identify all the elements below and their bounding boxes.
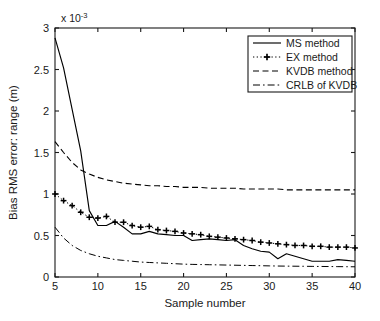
data-point-marker — [172, 228, 178, 234]
chart-canvas: 00.511.522.53 510152025303540 x 10-3 Sam… — [0, 0, 380, 321]
data-point-marker — [189, 231, 195, 237]
data-point-marker — [95, 215, 101, 221]
series-line — [55, 142, 355, 190]
legend-label: CRLB of KVDB — [286, 79, 357, 91]
data-point-marker — [344, 244, 350, 250]
y-tick-label: 2 — [43, 105, 49, 117]
data-point-marker — [241, 237, 247, 243]
data-point-marker — [78, 209, 84, 215]
data-point-marker — [335, 244, 341, 250]
y-tick-label: 2.5 — [34, 64, 49, 76]
data-point-marker — [352, 245, 358, 251]
legend-label: MS method — [286, 37, 340, 49]
data-point-marker — [138, 224, 144, 230]
data-point-marker — [112, 219, 118, 225]
x-tick-label: 15 — [135, 280, 147, 292]
x-tick-label: 40 — [349, 280, 361, 292]
data-point-marker — [266, 240, 272, 246]
data-point-marker — [206, 233, 212, 239]
data-point-marker — [52, 191, 58, 197]
data-point-marker — [104, 214, 110, 220]
x-axis-tick-labels: 510152025303540 — [52, 280, 361, 292]
series-ex-method — [52, 191, 358, 251]
data-point-marker — [301, 243, 307, 249]
y-tick-label: 0 — [43, 271, 49, 283]
y-tick-label: 0.5 — [34, 230, 49, 242]
data-point-marker — [275, 241, 281, 247]
data-point-marker — [198, 232, 204, 238]
data-point-marker — [326, 244, 332, 250]
figure-container: 00.511.522.53 510152025303540 x 10-3 Sam… — [0, 0, 380, 321]
series-line — [55, 194, 355, 248]
y-axis-label: Bias RMS error: range (m) — [7, 85, 19, 220]
x-tick-label: 5 — [52, 280, 58, 292]
data-point-marker — [309, 243, 315, 249]
y-tick-label: 1 — [43, 188, 49, 200]
x-tick-label: 25 — [220, 280, 232, 292]
y-tick-label: 3 — [43, 22, 49, 34]
data-point-marker — [318, 243, 324, 249]
data-point-marker — [164, 228, 170, 234]
legend-label: KVDB method — [286, 65, 353, 77]
data-point-marker — [146, 223, 152, 229]
x-tick-label: 30 — [263, 280, 275, 292]
data-point-marker — [258, 239, 264, 245]
y-tick-label: 1.5 — [34, 147, 49, 159]
x-tick-label: 10 — [92, 280, 104, 292]
data-point-marker — [69, 203, 75, 209]
x-axis-label: Sample number — [164, 297, 245, 309]
data-point-marker — [155, 227, 161, 233]
data-point-marker — [129, 223, 135, 229]
series-kvdb-method — [55, 142, 355, 190]
data-point-marker — [121, 219, 127, 225]
chart-legend[interactable]: MS methodEX methodKVDB methodCRLB of KVD… — [248, 36, 357, 92]
data-point-marker — [292, 243, 298, 249]
y-axis-tick-labels: 00.511.522.53 — [34, 22, 49, 283]
legend-label: EX method — [286, 51, 338, 63]
data-point-marker — [249, 238, 255, 244]
y-axis-exponent-label: x 10-3 — [61, 11, 88, 24]
x-tick-label: 20 — [177, 280, 189, 292]
data-point-marker — [284, 242, 290, 248]
x-tick-label: 35 — [306, 280, 318, 292]
